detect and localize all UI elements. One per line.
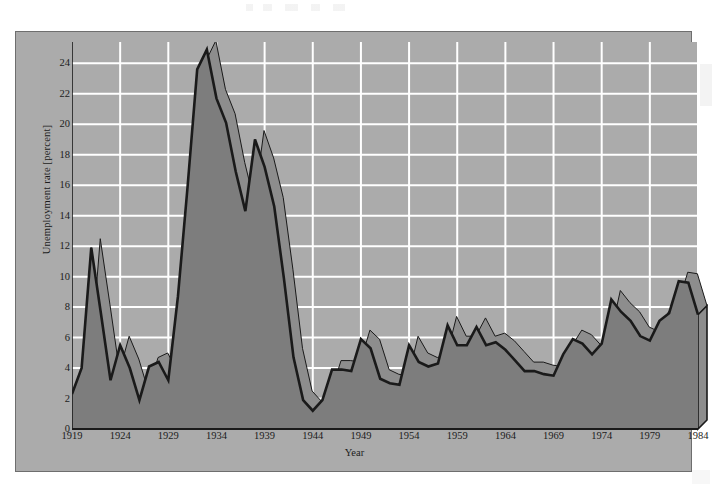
x-tick-label: 1929 — [145, 431, 191, 442]
y-axis-tick-labels: 024681012141618202224 — [34, 42, 70, 429]
scan-artifact-bottom-right — [692, 470, 710, 484]
x-tick-label: 1919 — [49, 431, 95, 442]
x-tick-label: 1939 — [242, 431, 288, 442]
y-tick-label: 10 — [44, 272, 70, 283]
y-tick-label: 12 — [44, 241, 70, 252]
plot-inner — [72, 42, 698, 429]
x-tick-label: 1969 — [531, 431, 577, 442]
y-tick-label: 22 — [44, 89, 70, 100]
y-tick-label: 6 — [44, 333, 70, 344]
figure-page: Unemployment rate [percent] 024681012141… — [0, 0, 719, 493]
scan-artifact-top — [246, 4, 364, 11]
series-side-wall — [698, 306, 707, 429]
plot-area — [72, 42, 698, 429]
y-tick-label: 20 — [44, 119, 70, 130]
x-axis-title: Year — [16, 447, 693, 458]
x-tick-label: 1944 — [290, 431, 336, 442]
y-tick-label: 4 — [44, 363, 70, 374]
x-tick-label: 1959 — [434, 431, 480, 442]
x-tick-label: 1924 — [97, 431, 143, 442]
x-tick-label: 1984 — [675, 431, 719, 442]
x-tick-label: 1964 — [482, 431, 528, 442]
y-tick-label: 24 — [44, 58, 70, 69]
x-tick-label: 1934 — [193, 431, 239, 442]
chart-figure-frame: Unemployment rate [percent] 024681012141… — [15, 31, 692, 472]
chart-svg — [72, 42, 714, 443]
x-tick-label: 1979 — [627, 431, 673, 442]
y-tick-label: 14 — [44, 211, 70, 222]
y-tick-label: 8 — [44, 302, 70, 313]
x-tick-label: 1974 — [579, 431, 625, 442]
y-tick-label: 18 — [44, 150, 70, 161]
x-tick-label: 1949 — [338, 431, 384, 442]
x-tick-label: 1954 — [386, 431, 432, 442]
y-tick-label: 2 — [44, 394, 70, 405]
y-tick-label: 16 — [44, 180, 70, 191]
